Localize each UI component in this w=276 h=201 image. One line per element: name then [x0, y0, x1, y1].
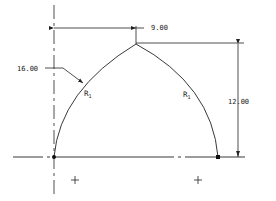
right-arc[interactable] [136, 44, 218, 157]
right-center-plus-icon[interactable] [194, 176, 202, 184]
right-endpoint-marker[interactable] [216, 155, 220, 159]
radius-callout-value[interactable]: 16.00 [17, 65, 38, 73]
vertical-dimension-value[interactable]: 12.00 [228, 98, 249, 106]
origin-point-marker[interactable] [52, 155, 56, 159]
left-center-plus-icon[interactable] [71, 176, 79, 184]
right-arc-radius-label: R1 [183, 90, 191, 100]
sketch-canvas: 9.00 12.00 16.00 R1 R1 [0, 0, 276, 201]
radius-leader [45, 68, 83, 83]
horizontal-dimension-value[interactable]: 9.00 [151, 24, 168, 32]
left-arc[interactable] [54, 44, 136, 157]
left-arc-radius-label: R1 [84, 89, 92, 99]
